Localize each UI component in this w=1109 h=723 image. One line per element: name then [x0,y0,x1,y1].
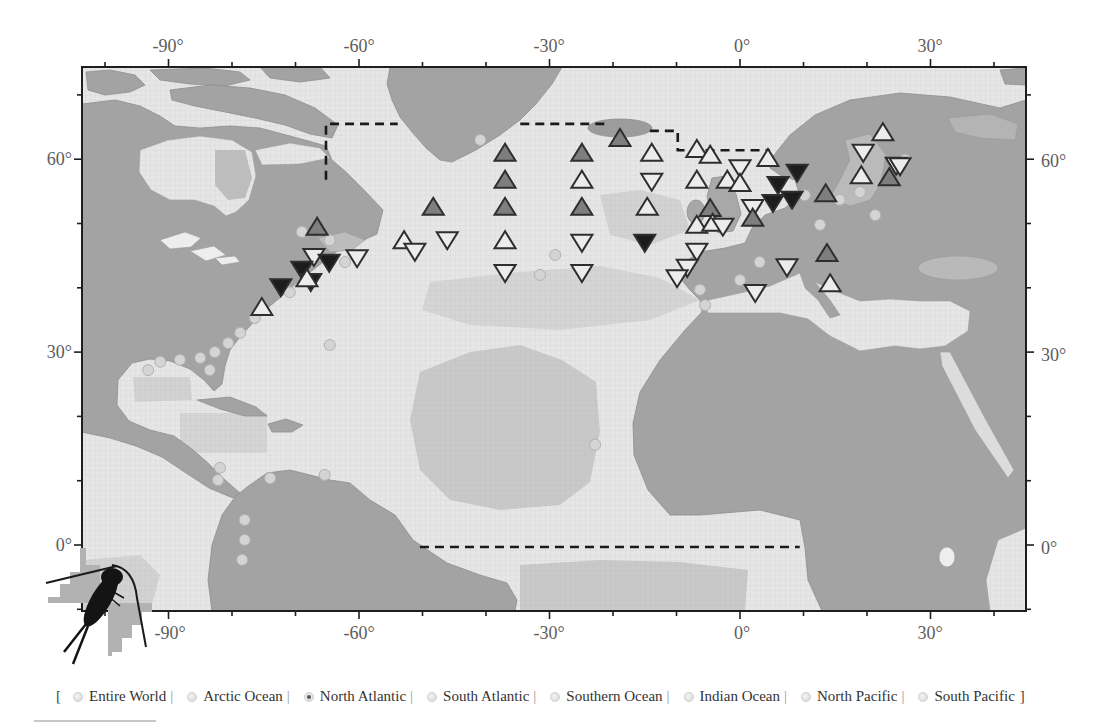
histogram-bars [108,603,152,656]
site-circle-icon [195,352,206,363]
axis-label-bottom: -90° [154,623,185,643]
region-option-label[interactable]: Entire World [89,688,166,705]
site-circle-icon [214,462,225,473]
divider [34,720,156,722]
separator: | [667,688,670,705]
site-circle-icon [223,338,234,349]
radio-button[interactable] [550,692,560,702]
region-option-north-atlantic[interactable]: North Atlantic [292,688,406,705]
site-circle-icon [204,365,215,376]
site-circle-icon [155,356,166,367]
site-circle-icon [239,534,250,545]
radio-button[interactable] [684,692,694,702]
separator: | [784,688,787,705]
axis-label-right: 0° [1041,538,1057,558]
separator: | [410,688,413,705]
region-option-label[interactable]: Indian Ocean [700,688,780,705]
separator: | [533,688,536,705]
axis-label-left: 0° [56,535,72,555]
site-circle-icon [174,354,185,365]
axis-label-top: -90° [152,36,183,56]
region-option-north-pacific[interactable]: North Pacific [789,688,897,705]
separator: | [901,688,904,705]
region-selector: [ Entire World | Arctic Ocean | North At… [56,688,1025,705]
axis-label-bottom: 30° [917,623,942,643]
axis-label-top: 0° [734,36,750,56]
close-bracket: ] [1020,688,1025,705]
region-option-south-pacific[interactable]: South Pacific [906,688,1014,705]
axis-label-right: 60° [1041,151,1066,171]
region-option-label[interactable]: North Pacific [817,688,897,705]
axis-label-bottom: -30° [533,623,564,643]
site-circle-icon [534,269,545,280]
black-sea [918,256,998,280]
site-circle-icon [324,340,335,351]
radio-button[interactable] [73,692,83,702]
site-circle-icon [213,475,224,486]
ocean-map [0,0,1109,723]
region-option-arctic-ocean[interactable]: Arctic Ocean [175,688,283,705]
axis-label-left: 30° [47,342,72,362]
axis-label-top: -30° [533,36,564,56]
axis-label-top: -60° [343,36,374,56]
radio-button-selected[interactable] [304,692,314,702]
region-option-indian-ocean[interactable]: Indian Ocean [672,688,780,705]
axis-label-bottom: -60° [343,623,374,643]
site-circle-icon [324,235,335,246]
radio-button[interactable] [918,692,928,702]
site-circle-icon [209,347,220,358]
region-option-south-atlantic[interactable]: South Atlantic [415,688,529,705]
copepod-tail-icon [64,624,88,664]
site-circle-icon [143,365,154,376]
axis-label-top: 30° [917,36,942,56]
copepod-head-icon [101,568,123,586]
axis-label-bottom: 0° [734,623,750,643]
site-circle-icon [815,219,826,230]
axis-label-left: 60° [47,149,72,169]
site-circle-icon [265,473,276,484]
site-circle-icon [475,134,486,145]
map-body [82,67,1026,611]
radio-button[interactable] [427,692,437,702]
radio-button[interactable] [801,692,811,702]
site-circle-icon [735,275,746,286]
region-option-label[interactable]: Arctic Ocean [203,688,283,705]
site-circle-icon [870,210,881,221]
site-circle-icon [694,284,705,295]
region-option-entire-world[interactable]: Entire World [61,688,166,705]
axis-label-right: 30° [1041,345,1066,365]
site-circle-icon [550,250,561,261]
site-circle-icon [319,469,330,480]
region-option-label[interactable]: South Pacific [934,688,1014,705]
site-circle-icon [235,327,246,338]
site-circle-icon [754,257,765,268]
region-option-southern-ocean[interactable]: Southern Ocean [538,688,662,705]
region-option-label[interactable]: South Atlantic [443,688,529,705]
site-circle-icon [239,514,250,525]
site-circle-icon [340,257,351,268]
separator: | [170,688,173,705]
site-circle-icon [590,439,601,450]
site-circle-icon [855,186,866,197]
region-option-label[interactable]: North Atlantic [320,688,406,705]
site-circle-icon [237,554,248,565]
site-circle-icon [700,300,711,311]
radio-button[interactable] [187,692,197,702]
region-option-label[interactable]: Southern Ocean [566,688,662,705]
lake-victoria [939,547,955,567]
separator: | [287,688,290,705]
